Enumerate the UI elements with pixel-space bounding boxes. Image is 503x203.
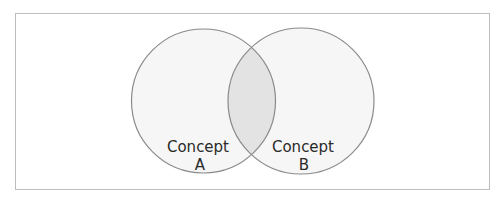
label-concept-a-line2: A (195, 156, 206, 174)
venn-diagram: Concept A Concept B (0, 0, 503, 203)
label-concept-a-line1: Concept (167, 138, 229, 156)
label-concept-b-line2: B (299, 156, 309, 174)
label-concept-b-line1: Concept (272, 138, 334, 156)
